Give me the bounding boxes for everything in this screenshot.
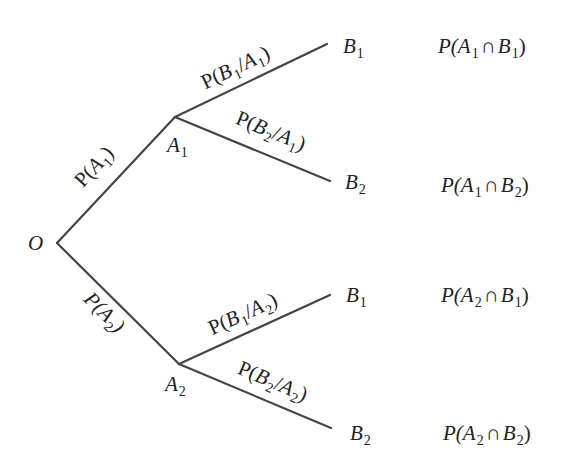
result-p-a2-and-b2: P(A2∩B2) [443,423,531,444]
label-part: 1 [515,295,522,310]
node-letter: B [345,170,358,194]
label-part: P( [441,173,461,197]
label-part: B [503,421,516,445]
leaf-a2-b1-label: B1 [346,285,367,306]
intersection-symbol: ∩ [486,421,501,445]
node-subscript: 2 [359,182,366,197]
node-subscript: 1 [181,145,188,160]
result-p-a1-and-b1: P(A1∩B1) [438,36,526,57]
node-letter: A [167,133,180,157]
label-part: P( [438,34,458,58]
intersection-symbol: ∩ [484,283,499,307]
label-part: A [463,421,476,445]
result-p-a1-and-b2: P(A1∩B2) [441,175,529,196]
label-part: 2 [477,433,484,448]
node-letter: A [165,372,178,396]
label-part: ) [522,173,529,197]
label-part: ) [522,283,529,307]
node-subscript: 2 [179,384,186,399]
label-part: P( [443,421,463,445]
label-part: B [501,173,514,197]
leaf-a1-b2-label: B2 [345,172,366,193]
node-letter: B [350,421,363,445]
node-letter: B [346,283,359,307]
label-part: 2 [517,433,524,448]
label-part: A [461,173,474,197]
node-subscript: 1 [357,46,364,61]
intersection-symbol: ∩ [484,173,499,197]
node-a2-label: A2 [165,374,186,395]
label-part: ) [519,34,526,58]
label-part: 2 [515,185,522,200]
label-part: 1 [512,46,519,61]
label-part: A [458,34,471,58]
node-subscript: 2 [364,433,371,448]
label-part: B [498,34,511,58]
label-part: 2 [475,295,482,310]
label-part: 1 [475,185,482,200]
node-subscript: 1 [360,295,367,310]
label-part: 1 [472,46,479,61]
label-part: P( [441,283,461,307]
result-p-a2-and-b1: P(A2∩B1) [441,285,529,306]
tree-edges [0,0,574,475]
leaf-a2-b2-label: B2 [350,423,371,444]
label-part: ) [524,421,531,445]
root-node-label: O [28,233,43,254]
edge-o-a2 [57,243,179,364]
label-part: B [501,283,514,307]
node-a1-label: A1 [167,135,188,156]
label-part: A [461,283,474,307]
node-letter: B [343,34,356,58]
leaf-a1-b1-label: B1 [343,36,364,57]
intersection-symbol: ∩ [481,34,496,58]
